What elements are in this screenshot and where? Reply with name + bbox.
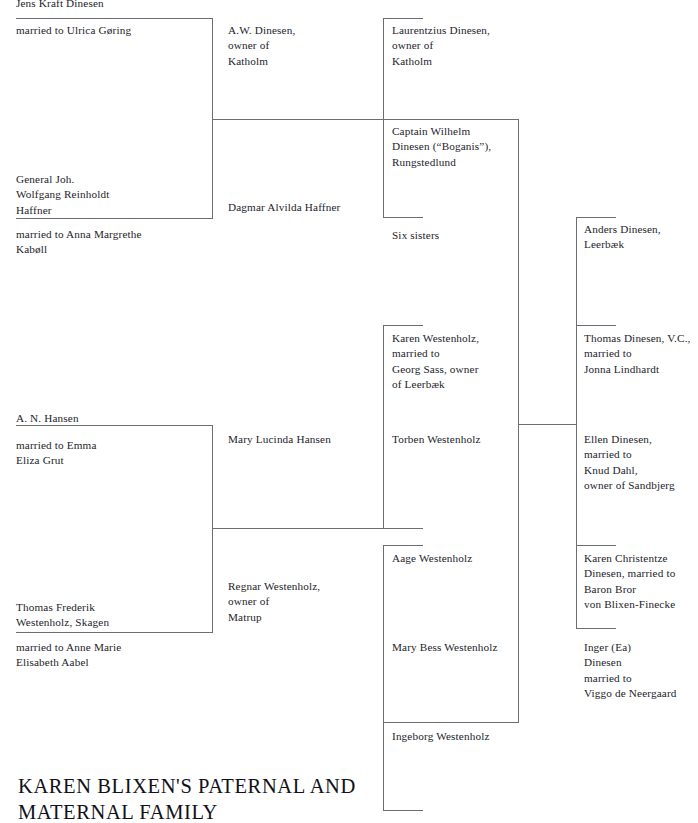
person-node-anders-dinesen: Anders Dinesen, Leerbæk bbox=[584, 222, 698, 253]
person-node-dagmar-alvilda-haffner: Dagmar Alvilda Haffner bbox=[228, 200, 388, 215]
connector-line-col3-ingeborg-side bbox=[383, 722, 384, 810]
person-node-karen-westenholz: Karen Westenholz, married to Georg Sass,… bbox=[392, 331, 542, 392]
connector-line-col5-anders-bracket-top bbox=[576, 217, 616, 218]
person-node-mary-lucinda-hansen: Mary Lucinda Hansen bbox=[228, 432, 388, 447]
connector-line-col1-top-connector bbox=[212, 119, 384, 120]
connector-line-col3-aage-side bbox=[383, 545, 384, 723]
connector-line-col3-aage-bracket-top bbox=[383, 545, 423, 546]
person-node-married-anna-margrethe: married to Anna Margrethe Kabøll bbox=[16, 227, 216, 258]
connector-line-col5-anders-side bbox=[576, 217, 577, 325]
person-node-thomas-dinesen-vc: Thomas Dinesen, V.C., married to Jonna L… bbox=[584, 331, 698, 377]
person-node-aage-westenholz: Aage Westenholz bbox=[392, 551, 542, 566]
connector-line-col5-karenc-side bbox=[576, 545, 577, 628]
connector-line-col3-lower-bracket-bot bbox=[383, 722, 519, 723]
person-node-ingeborg-westenholz: Ingeborg Westenholz bbox=[392, 729, 552, 744]
person-node-laurentzius-dinesen: Laurentzius Dinesen, owner of Katholm bbox=[392, 23, 532, 69]
person-node-married-ulrica-goring: married to Ulrica Gøring bbox=[16, 23, 216, 38]
person-node-regnar-westenholz: Regnar Westenholz, owner of Matrup bbox=[228, 579, 388, 625]
connector-line-col1-top-bracket-top bbox=[16, 18, 213, 19]
connector-line-col3-ingeborg-bot bbox=[383, 810, 423, 811]
person-node-general-haffner: General Joh. Wolfgang Reinholdt Haffner bbox=[16, 172, 216, 218]
connector-line-col5-thomas-bracket-top bbox=[576, 325, 616, 326]
person-node-aw-dinesen: A.W. Dinesen, owner of Katholm bbox=[228, 23, 378, 69]
person-node-a-n-hansen: A. N. Hansen bbox=[16, 411, 216, 426]
connector-line-col3-karen-bracket-top bbox=[383, 325, 423, 326]
connector-line-col1-bot-connector bbox=[212, 528, 384, 529]
connector-line-col3-top-bracket-bottom bbox=[383, 217, 423, 218]
connector-line-col3-wilhelm-bracket-top bbox=[383, 119, 518, 120]
person-node-mary-bess-westenholz: Mary Bess Westenholz bbox=[392, 640, 552, 655]
connector-line-col5-ellen-side bbox=[576, 424, 577, 545]
connector-line-col3-karen-side bbox=[383, 325, 384, 529]
connector-line-col3-top-bracket-top bbox=[383, 18, 423, 19]
person-node-thomas-frederik-westenholz: Thomas Frederik Westenholz, Skagen bbox=[16, 600, 216, 631]
page-title: KAREN BLIXEN'S PATERNAL AND MATERNAL FAM… bbox=[18, 773, 356, 823]
person-node-inger-ea-dinesen: Inger (Ea) Dinesen married to Viggo de N… bbox=[584, 640, 698, 701]
connector-line-col3-lower-side bbox=[518, 424, 519, 723]
connector-line-col1-bot-bracket-bottom bbox=[16, 632, 213, 633]
person-node-torben-westenholz: Torben Westenholz bbox=[392, 432, 542, 447]
connector-line-col5-karenc-bracket-bot bbox=[576, 628, 616, 629]
connector-line-col1-top-bracket-bottom bbox=[16, 218, 213, 219]
person-node-ellen-dinesen: Ellen Dinesen, married to Knud Dahl, own… bbox=[584, 432, 698, 493]
connector-line-col5-karenc-bracket-top bbox=[576, 545, 616, 546]
person-node-jens-kraft-dinesen: Jens Kraft Dinesen bbox=[16, 0, 216, 11]
person-node-captain-wilhelm-dinesen: Captain Wilhelm Dinesen (“Boganis”), Run… bbox=[392, 124, 542, 170]
person-node-six-sisters: Six sisters bbox=[392, 228, 532, 243]
person-node-karen-christentze-dinesen: Karen Christentze Dinesen, married to Ba… bbox=[584, 551, 698, 612]
person-node-married-emma-eliza-grut: married to Emma Eliza Grut bbox=[16, 438, 216, 469]
person-node-married-anne-marie-aabel: married to Anne Marie Elisabeth Aabel bbox=[16, 640, 216, 671]
connector-line-col3-karen-bracket-bot bbox=[383, 528, 423, 529]
connector-line-col3-top-bracket-side bbox=[383, 18, 384, 218]
connector-line-col5-thomas-side bbox=[576, 325, 577, 424]
connector-line-col5-mid-connector bbox=[518, 424, 576, 425]
